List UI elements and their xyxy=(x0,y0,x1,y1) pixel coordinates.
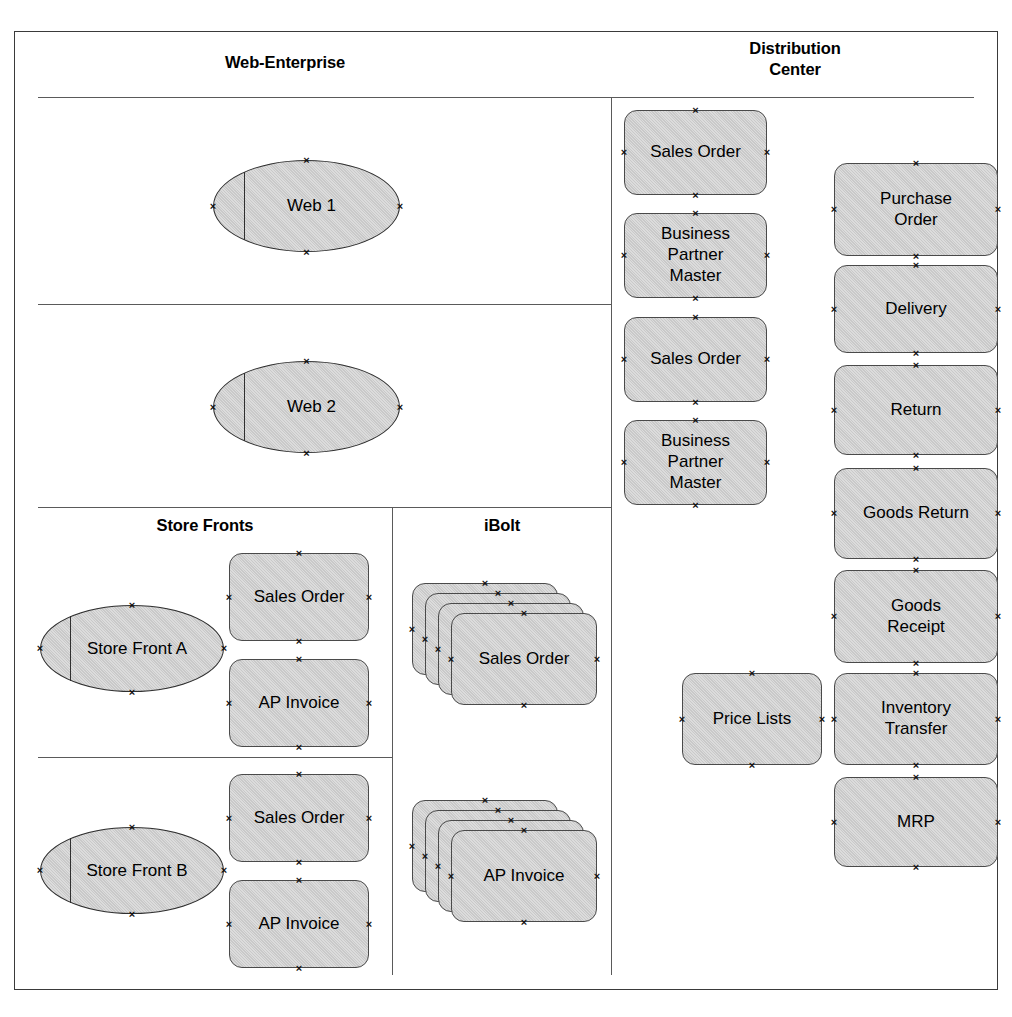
node-dc-price-lists[interactable]: Price Lists xyxy=(682,673,822,765)
node-body: Delivery xyxy=(834,265,998,353)
node-body: Sales Order xyxy=(624,110,767,195)
node-label: Business Partner Master xyxy=(661,431,730,493)
lane-title-web-enterprise: Web-Enterprise xyxy=(90,52,480,73)
node-body: Inventory Transfer xyxy=(834,673,998,765)
node-body: Sales Order xyxy=(624,317,767,402)
node-ibolt-sales-order[interactable]: Sales Order xyxy=(412,583,597,705)
node-label: MRP xyxy=(897,812,935,833)
node-label: Goods Receipt xyxy=(887,596,945,637)
node-label: Business Partner Master xyxy=(661,224,730,286)
node-body: Business Partner Master xyxy=(624,420,767,505)
node-ibolt-ap-invoice[interactable]: AP Invoice xyxy=(412,800,597,922)
node-dc-purchase-order[interactable]: Purchase Order xyxy=(834,163,998,256)
divider-header-left xyxy=(38,97,611,98)
lane-title-store-fronts: Store Fronts xyxy=(80,515,330,536)
node-label: Store Front B xyxy=(76,861,187,881)
stack-card-front: Sales Order xyxy=(451,613,597,705)
node-web2[interactable]: Web 2 xyxy=(213,361,400,453)
node-label: Web 1 xyxy=(277,196,336,216)
web1-ellipse-body: Web 1 xyxy=(213,160,400,252)
lane-title-ibolt: iBolt xyxy=(412,515,592,536)
ellipse-chord-icon xyxy=(244,373,245,441)
node-dc-sales-order-2[interactable]: Sales Order xyxy=(624,317,767,402)
divider-header-right xyxy=(612,97,974,98)
node-label: Sales Order xyxy=(254,808,345,829)
node-label: AP Invoice xyxy=(259,693,340,714)
node-sf-b-sales-order[interactable]: Sales Order xyxy=(229,774,369,862)
node-label: Store Front A xyxy=(77,639,187,659)
divider-lane-vertical-main xyxy=(611,97,612,975)
node-label: Delivery xyxy=(885,299,946,320)
node-label: Sales Order xyxy=(650,142,741,163)
divider-web1-web2 xyxy=(38,304,611,305)
diagram-canvas: Web-Enterprise Distribution Center Store… xyxy=(0,0,1012,1017)
node-body: AP Invoice xyxy=(229,880,369,968)
web2-ellipse-body: Web 2 xyxy=(213,361,400,453)
node-dc-bp-master-1[interactable]: Business Partner Master xyxy=(624,213,767,298)
node-label: Sales Order xyxy=(254,587,345,608)
node-label: Sales Order xyxy=(479,649,570,669)
ellipse-chord-icon xyxy=(70,616,71,681)
node-body: Purchase Order xyxy=(834,163,998,256)
node-label: Web 2 xyxy=(277,397,336,417)
node-web1[interactable]: Web 1 xyxy=(213,160,400,252)
node-label: Goods Return xyxy=(863,503,969,524)
node-sf-b-ap-invoice[interactable]: AP Invoice xyxy=(229,880,369,968)
node-label: Sales Order xyxy=(650,349,741,370)
node-body: Business Partner Master xyxy=(624,213,767,298)
ellipse-chord-icon xyxy=(70,838,71,903)
node-store-front-b[interactable]: Store Front B xyxy=(40,827,224,914)
lane-title-distribution-center: Distribution Center xyxy=(660,38,930,80)
node-dc-mrp[interactable]: MRP xyxy=(834,777,998,867)
stack-card-front: AP Invoice xyxy=(451,830,597,922)
node-store-front-a[interactable]: Store Front A xyxy=(40,605,224,692)
ellipse-chord-icon xyxy=(244,172,245,240)
node-dc-sales-order-1[interactable]: Sales Order xyxy=(624,110,767,195)
node-body: Goods Receipt xyxy=(834,570,998,663)
store-front-a-ellipse-body: Store Front A xyxy=(40,605,224,692)
node-label: AP Invoice xyxy=(259,914,340,935)
node-label: Price Lists xyxy=(713,709,791,730)
node-label: AP Invoice xyxy=(484,866,565,886)
node-label: Inventory Transfer xyxy=(881,698,951,739)
node-dc-goods-receipt[interactable]: Goods Receipt xyxy=(834,570,998,663)
divider-storefront-a-b xyxy=(38,757,392,758)
node-label: Return xyxy=(890,400,941,421)
node-dc-goods-return[interactable]: Goods Return xyxy=(834,468,998,559)
node-body: AP Invoice xyxy=(229,659,369,747)
node-sf-a-sales-order[interactable]: Sales Order xyxy=(229,553,369,641)
node-dc-bp-master-2[interactable]: Business Partner Master xyxy=(624,420,767,505)
store-front-b-ellipse-body: Store Front B xyxy=(40,827,224,914)
node-body: Return xyxy=(834,365,998,455)
node-sf-a-ap-invoice[interactable]: AP Invoice xyxy=(229,659,369,747)
node-body: Sales Order xyxy=(229,774,369,862)
node-dc-delivery[interactable]: Delivery xyxy=(834,265,998,353)
divider-lane-vertical-ibolt xyxy=(392,507,393,975)
node-body: Sales Order xyxy=(229,553,369,641)
node-body: Price Lists xyxy=(682,673,822,765)
divider-web2-storefronts xyxy=(38,507,611,508)
node-body: MRP xyxy=(834,777,998,867)
node-dc-return[interactable]: Return xyxy=(834,365,998,455)
node-label: Purchase Order xyxy=(880,189,952,230)
node-body: Goods Return xyxy=(834,468,998,559)
node-dc-inventory-transfer[interactable]: Inventory Transfer xyxy=(834,673,998,765)
